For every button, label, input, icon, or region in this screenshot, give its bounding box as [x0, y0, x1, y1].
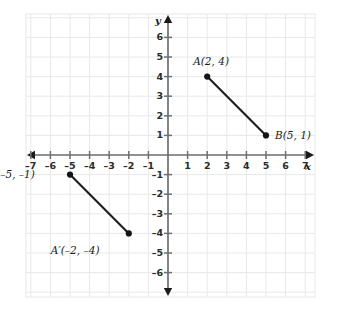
arrowhead-x-right — [306, 151, 314, 159]
y-tick-label: 3 — [141, 90, 163, 101]
segment-A'B' — [70, 175, 129, 234]
y-tick-label: –1 — [141, 169, 163, 180]
x-tick-label: –3 — [99, 160, 119, 171]
arrowhead-y-up — [164, 15, 172, 23]
x-tick-label: –6 — [40, 160, 60, 171]
data-point-B' — [67, 172, 73, 178]
y-tick-label: 2 — [141, 110, 163, 121]
x-tick-label: 4 — [236, 160, 256, 171]
y-tick-label: –5 — [141, 247, 163, 258]
x-tick-label: 6 — [276, 160, 296, 171]
x-tick-label: –4 — [80, 160, 100, 171]
coordinate-plane-figure: –7–6–5–4–3–2–11234567654321–1–2–3–4–5–6 … — [0, 0, 342, 309]
x-axis-label: x — [305, 161, 311, 172]
data-point-A' — [126, 230, 132, 236]
point-label-A: A(2, 4) — [193, 55, 229, 67]
point-label-A': A′(–2, –4) — [51, 244, 100, 256]
point-label-B': B′(–5, –1) — [0, 168, 35, 180]
plot-canvas — [0, 0, 342, 309]
y-tick-label: –6 — [141, 267, 163, 278]
segment-AB — [207, 77, 266, 136]
point-label-B: B(5, 1) — [275, 129, 311, 141]
y-tick-label: 5 — [141, 51, 163, 62]
y-tick-label: 1 — [141, 129, 163, 140]
y-tick-label: –2 — [141, 188, 163, 199]
y-tick-label: 6 — [141, 31, 163, 42]
y-tick-label: –3 — [141, 208, 163, 219]
x-tick-label: –5 — [60, 160, 80, 171]
x-tick-label: –2 — [119, 160, 139, 171]
y-tick-label: 4 — [141, 71, 163, 82]
x-tick-label: 2 — [197, 160, 217, 171]
data-point-B — [263, 132, 269, 138]
data-point-A — [204, 74, 210, 80]
x-tick-label: 5 — [256, 160, 276, 171]
y-tick-label: –4 — [141, 227, 163, 238]
x-tick-label: 1 — [178, 160, 198, 171]
y-axis-label: y — [155, 15, 161, 26]
x-tick-label: 3 — [217, 160, 237, 171]
